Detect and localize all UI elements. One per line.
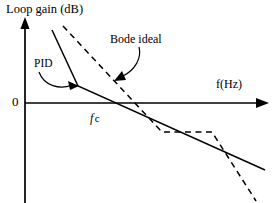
y-axis-label: Loop gain (dB): [6, 3, 83, 16]
bode-ideal-curve-label: Bode ideal: [110, 33, 162, 45]
x-axis-arrowhead: [256, 98, 269, 108]
y-axis: [20, 17, 29, 203]
x-axis-label: f(Hz): [216, 78, 242, 90]
pid-curve-label: PID: [34, 58, 53, 70]
pid-arrowhead: [68, 81, 79, 90]
plot-canvas: [0, 0, 275, 203]
crossover-frequency-subscript: c: [93, 112, 99, 124]
y-axis-arrowhead: [20, 17, 29, 29]
x-axis: [25, 98, 269, 108]
pid-curve: [52, 30, 265, 170]
bode-ideal-arrowhead: [114, 71, 126, 81]
bode-plot-figure: Loop gain (dB) f(Hz) 0 PID Bode ideal fc: [0, 0, 275, 203]
origin-zero-label: 0: [12, 95, 19, 108]
bode-ideal-leader-arrow: [114, 47, 140, 81]
crossover-frequency-label: fc: [90, 112, 100, 124]
